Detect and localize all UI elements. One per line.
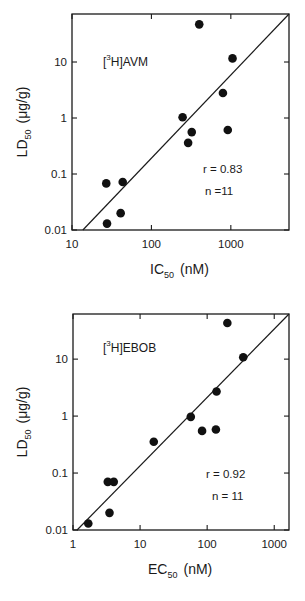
data-point xyxy=(103,219,112,228)
correlation-r: r = 0.92 xyxy=(206,468,245,480)
data-point xyxy=(228,54,237,63)
y-tick-label: 0.01 xyxy=(45,224,67,236)
data-point xyxy=(219,89,228,98)
radioligand-label: [3H]AVM xyxy=(103,53,148,69)
scatter-panel-bottom: 11010010000.010.1110[3H]EBOBr = 0.92n = … xyxy=(14,314,289,580)
y-axis-title: LD50(μg/g) xyxy=(14,87,33,158)
x-axis-title: IC50(nM) xyxy=(150,261,209,280)
radioligand-label: [3H]EBOB xyxy=(103,339,156,355)
x-tick-label: 100 xyxy=(142,238,161,250)
sample-n: n = 11 xyxy=(212,490,243,502)
sample-n: n =11 xyxy=(205,185,233,197)
plot-frame xyxy=(72,14,289,230)
scatter-panel-top: 1010010000.010.1110[3H]AVMr = 0.83n =11I… xyxy=(14,14,289,280)
y-tick-label: 10 xyxy=(54,56,67,68)
x-tick-label: 100 xyxy=(198,538,217,550)
x-tick-label: 1000 xyxy=(261,538,287,550)
y-tick-label: 0.01 xyxy=(46,524,68,536)
data-point xyxy=(116,209,125,218)
y-tick-label: 10 xyxy=(55,353,68,365)
data-point xyxy=(212,425,221,434)
data-point xyxy=(198,427,207,436)
regression-line xyxy=(83,14,289,230)
data-point xyxy=(178,113,187,122)
correlation-r: r = 0.83 xyxy=(203,163,242,175)
y-tick-label: 1 xyxy=(62,410,68,422)
data-point xyxy=(212,387,221,396)
data-point xyxy=(149,437,158,446)
data-point xyxy=(239,353,248,362)
figure-svg: 1010010000.010.1110[3H]AVMr = 0.83n =11I… xyxy=(0,0,305,601)
y-tick-label: 0.1 xyxy=(51,168,67,180)
x-tick-label: 1000 xyxy=(218,238,244,250)
x-axis-title: EC50(nM) xyxy=(148,561,212,580)
y-tick-label: 1 xyxy=(61,112,67,124)
y-tick-label: 0.1 xyxy=(52,467,68,479)
x-tick-label: 1 xyxy=(70,538,76,550)
data-point xyxy=(223,126,232,135)
data-point xyxy=(184,139,193,148)
data-point xyxy=(109,478,118,487)
x-tick-label: 10 xyxy=(134,538,147,550)
data-point xyxy=(187,128,196,137)
data-point xyxy=(84,519,93,528)
data-point xyxy=(105,509,114,518)
data-point xyxy=(102,179,111,188)
figure: 1010010000.010.1110[3H]AVMr = 0.83n =11I… xyxy=(0,0,305,601)
data-point xyxy=(186,413,195,422)
x-tick-label: 10 xyxy=(66,238,79,250)
data-point xyxy=(195,20,204,29)
data-point xyxy=(223,319,232,328)
data-point xyxy=(118,178,127,187)
y-axis-title: LD50(μg/g) xyxy=(14,387,33,458)
